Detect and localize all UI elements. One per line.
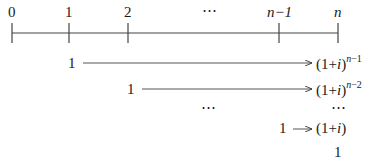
timeline-ellipsis: ⋯: [202, 3, 217, 18]
row-3-ellipsis-right: ⋯: [331, 100, 346, 115]
row-5-end: 1: [334, 145, 342, 160]
row-4-end: (1+i): [316, 121, 346, 136]
tick-label-0: 0: [8, 5, 16, 20]
tick-label-1: 1: [65, 5, 73, 20]
row-4-start: 1: [279, 121, 287, 136]
tick-label-n-minus-1: n−1: [267, 5, 292, 20]
row-1-start: 1: [68, 56, 76, 71]
row-3-ellipsis-left: ⋯: [201, 100, 216, 115]
row-1-end: (1+i)n−1: [316, 57, 362, 73]
tick-label-2: 2: [124, 5, 132, 20]
row-2-start: 1: [127, 82, 135, 97]
row-2-end: (1+i)n−2: [316, 83, 362, 99]
tick-label-n: n: [334, 5, 342, 20]
